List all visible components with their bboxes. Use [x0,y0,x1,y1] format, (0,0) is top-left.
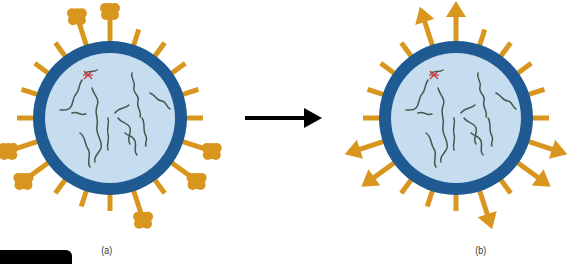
club-head-icon [13,173,33,190]
club-head-icon [67,8,87,25]
black-bar [0,250,72,264]
virus-particle-b [345,1,568,229]
club-head-icon [0,143,18,160]
panel-label-a: (a) [101,244,112,256]
panel-label-b: (b) [475,244,486,256]
club-head-icon [133,212,153,229]
virus-particle-a [0,3,222,229]
club-head-icon [202,143,222,160]
transition-arrow-icon [245,108,322,128]
club-head-icon [100,3,120,20]
club-head-icon [187,173,207,190]
